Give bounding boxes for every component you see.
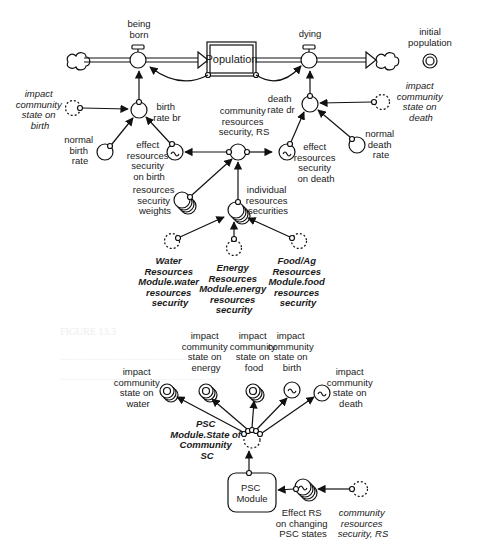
water-rs-label: Water Resources Module.water resources s… [138, 255, 201, 308]
impact-birth-node[interactable] [284, 382, 300, 398]
flow-valve-dying[interactable] [301, 45, 317, 68]
impact-energy-node[interactable] [199, 384, 217, 402]
water-rs-ghost[interactable] [165, 234, 181, 249]
normal-birth-rate-node[interactable] [97, 144, 113, 161]
rs-weights-label: resources security weights [133, 184, 177, 216]
impact-birth-label: impact community state on birth [16, 88, 65, 131]
food-rs-ghost[interactable] [290, 234, 307, 249]
impact-birth-ghost[interactable] [66, 101, 83, 116]
svg-text:FIGURE 13.3: FIGURE 13.3 [60, 326, 116, 337]
initial-population-node[interactable] [423, 54, 437, 68]
flow-valve-being-born[interactable] [130, 45, 146, 68]
energy-rs-label: Energy Resources Module.energy resources… [199, 262, 269, 315]
effect-rs-psc-label: Effect RS on changing PSC states [276, 507, 330, 539]
food-rs-label: Food/Ag Resources Module.food resources … [268, 255, 327, 308]
impact-water-node[interactable] [160, 384, 178, 402]
psc-module-box[interactable]: PSC Module [228, 471, 276, 513]
svg-text:Population: Population [206, 53, 258, 65]
community-rs-ghost[interactable] [350, 482, 368, 497]
effect-rs-birth-label: effect resources security on birth [127, 139, 171, 182]
normal-death-rate-node[interactable] [349, 137, 365, 154]
rs-weights-node[interactable] [174, 192, 196, 214]
community-rs-ghost-label: community resources security, RS [338, 507, 389, 539]
sink-cloud-icon [376, 53, 398, 70]
death-rate-label: death rate dr [267, 93, 294, 115]
impact-death-bottom-label: impact community state on death [327, 366, 376, 409]
death-rate-node[interactable] [302, 94, 318, 113]
psc-state-ghost[interactable] [242, 428, 263, 449]
psc-state-label: PSC Module.State of Community SC [170, 418, 243, 461]
stock-population[interactable]: Population [206, 42, 258, 76]
being-born-label: beingborn [127, 18, 150, 40]
source-cloud-icon [67, 53, 89, 70]
svg-text:PSC Module: PSC Module [236, 482, 267, 504]
individual-rs-label: individual resources securities [246, 184, 290, 216]
impact-death-ghost[interactable] [372, 95, 390, 110]
dying-label: dying [299, 28, 322, 39]
impact-energy-label: impact community state on energy [182, 330, 231, 373]
effect-rs-psc-node[interactable] [294, 479, 318, 501]
effect-rs-death-node[interactable] [279, 142, 295, 161]
impact-food-node[interactable] [246, 384, 264, 402]
community-rs-node[interactable] [227, 144, 250, 160]
energy-rs-ghost[interactable] [227, 237, 242, 256]
impact-death-label: impact community state on death [397, 80, 446, 123]
effect-rs-death-label: effect resources security on death [294, 141, 338, 184]
impact-birth-bottom-label: impact community state on birth [268, 330, 317, 373]
flow-arrow-icon [366, 52, 376, 68]
birth-rate-node[interactable] [131, 100, 147, 119]
community-rs-label: community resources security, RS [219, 105, 270, 137]
birth-rate-label: birth rate br [153, 101, 180, 123]
normal-birth-rate-label: normal birth rate [64, 134, 96, 166]
normal-death-rate-label: normal death rate [365, 128, 397, 160]
stock-flow-diagram: FIGURE 13.3 ............................… [0, 0, 478, 550]
initial-population-label: initialpopulation [408, 26, 452, 48]
